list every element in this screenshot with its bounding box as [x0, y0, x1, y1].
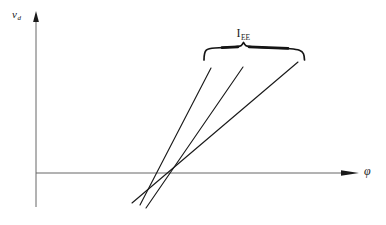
curly-brace	[204, 43, 305, 61]
brace-label-subscript: EE	[241, 33, 250, 42]
data-lines-group	[132, 62, 298, 208]
brace-label-symbol: I	[237, 26, 241, 40]
figure-canvas: vd φ IEE	[0, 0, 386, 225]
curly-brace-thickening	[222, 47, 288, 49]
data-line-3	[132, 62, 298, 203]
x-axis-arrowhead	[341, 170, 359, 175]
axes-group	[33, 11, 359, 207]
data-line-2	[146, 67, 243, 208]
x-axis-label: φ	[364, 165, 371, 177]
y-axis-label-subscript: d	[17, 14, 21, 22]
y-axis-arrowhead	[33, 11, 39, 22]
y-axis-label: vd	[12, 9, 20, 20]
plot-svg	[0, 0, 386, 225]
data-line-1	[140, 68, 211, 205]
brace-group	[204, 43, 305, 61]
brace-label: IEE	[237, 27, 250, 39]
